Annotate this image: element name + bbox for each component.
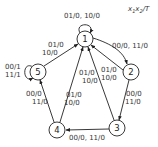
state-node-1: 1 [77, 31, 93, 47]
edge-4-5-label-a: 00/0 [26, 90, 42, 98]
state-node-4: 4 [49, 122, 65, 138]
edge-4-1 [60, 47, 83, 122]
state-node-3-label: 3 [114, 123, 119, 133]
state-diagram: x1x2/T 01/0, 10/0 00/0, 11/0 01/0 10/0 0… [0, 0, 158, 147]
state-node-1-label: 1 [82, 34, 87, 44]
legend-text: x1x2/T [127, 5, 150, 14]
edge-1-1-label: 01/0, 10/0 [64, 12, 100, 20]
edge-4-1-label-a: 01/0 [66, 91, 82, 99]
state-node-5: 5 [30, 64, 46, 80]
edge-5-1-label-a: 01/0 [48, 41, 64, 49]
edge-4-5-label-b: 11/0 [32, 98, 48, 106]
state-node-2: 2 [123, 64, 139, 80]
edge-3-4 [66, 129, 109, 130]
edge-1-2-label: 00/0, 11/0 [112, 42, 148, 50]
edge-5-5-label-b: 11/1 [5, 71, 21, 79]
edge-5-1-label-b: 10/0 [42, 49, 58, 57]
edge-3-1-label-a: 01/0 [79, 69, 95, 77]
state-node-2-label: 2 [128, 67, 133, 77]
edge-2-3-label-a: 00/0 [126, 90, 142, 98]
edge-3-1-label-b: 10/0 [82, 77, 98, 85]
edge-2-3-label-b: 11/0 [125, 98, 141, 106]
state-node-3: 3 [109, 120, 125, 136]
state-node-5-label: 5 [35, 67, 40, 77]
edge-2-1-label-a: 01/0 [101, 66, 117, 74]
edge-4-1-label-b: 10/0 [64, 99, 80, 107]
state-node-4-label: 4 [54, 125, 59, 135]
edge-2-1-label-b: 10/0 [101, 74, 117, 82]
edge-3-4-label: 00/0, 11/0 [69, 134, 105, 142]
edge-5-5-label-a: 00/1 [5, 63, 21, 71]
